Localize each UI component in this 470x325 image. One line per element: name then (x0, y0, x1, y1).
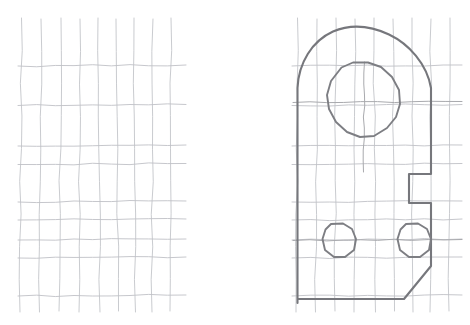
paper-background (0, 0, 470, 325)
sketch-canvas (0, 0, 470, 325)
sketch-page (0, 0, 470, 325)
